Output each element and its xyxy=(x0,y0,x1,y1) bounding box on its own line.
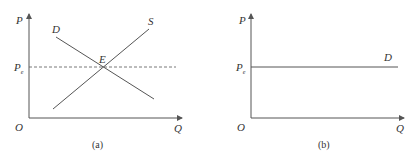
origin-label: O xyxy=(237,121,245,133)
demand-label: D xyxy=(383,51,392,63)
demand-label: D xyxy=(51,23,60,35)
y-axis-label: P xyxy=(238,14,246,26)
supply-label: S xyxy=(148,15,154,27)
panel-a: P Q O Pe D S E (a) xyxy=(13,14,182,151)
equilibrium-label: E xyxy=(98,53,106,65)
caption-b: (b) xyxy=(318,139,330,151)
demand-curve xyxy=(56,37,154,99)
supply-curve xyxy=(53,29,149,109)
price-label: Pe xyxy=(13,61,24,75)
price-label: Pe xyxy=(235,61,246,75)
panel-b: P Q O Pe D (b) xyxy=(235,14,404,151)
caption-a: (a) xyxy=(92,139,103,151)
y-axis-label: P xyxy=(15,14,23,26)
origin-label: O xyxy=(15,121,23,133)
diagram-canvas: P Q O Pe D S E (a) P Q O Pe D (b) xyxy=(0,0,413,160)
x-axis-label: Q xyxy=(396,122,404,134)
x-axis-label: Q xyxy=(174,122,182,134)
